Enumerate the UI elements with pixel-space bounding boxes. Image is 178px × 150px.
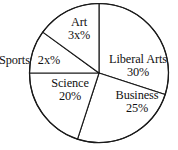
slice-label-liberal-arts-value: 30%: [99, 66, 177, 79]
slice-label-business-value: 25%: [104, 102, 170, 115]
slice-label-art: Art 3x%: [55, 16, 103, 42]
slice-label-business-name: Business: [104, 89, 170, 102]
slice-label-science: Science 20%: [40, 77, 100, 103]
slice-label-liberal-arts: Liberal Arts 30%: [99, 53, 177, 79]
slice-label-science-name: Science: [40, 77, 100, 90]
slice-label-business: Business 25%: [104, 89, 170, 115]
slice-label-art-value: 3x%: [55, 29, 103, 42]
slice-label-sports-value: 2x%: [38, 53, 60, 67]
slice-label-sports-name: Sports: [0, 53, 30, 67]
slice-label-liberal-arts-name: Liberal Arts: [99, 53, 177, 66]
slice-label-sports: Sports 2x%: [0, 54, 51, 67]
slice-label-science-value: 20%: [40, 90, 100, 103]
slice-label-art-name: Art: [55, 16, 103, 29]
pie-chart: Liberal Arts 30% Business 25% Science 20…: [0, 0, 178, 150]
